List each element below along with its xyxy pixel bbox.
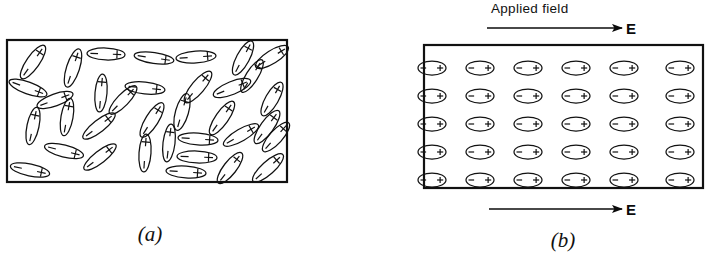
- dipole: [514, 61, 542, 75]
- panel-a-caption: (a): [100, 222, 200, 247]
- dipole: [666, 89, 694, 103]
- panel-b-caption: (b): [513, 228, 613, 253]
- dipole: [562, 145, 590, 159]
- dipole: [610, 117, 638, 131]
- dipole: [666, 145, 694, 159]
- dipole: [466, 61, 494, 75]
- dipole: [666, 61, 694, 75]
- dipole: [610, 173, 638, 187]
- dipole: [610, 89, 638, 103]
- dipole: [562, 61, 590, 75]
- dipole: [514, 117, 542, 131]
- dipole: [514, 145, 542, 159]
- dipole: [418, 117, 446, 131]
- dipole: [514, 173, 542, 187]
- applied-field-label: Applied field: [491, 1, 568, 16]
- dipole: [562, 173, 590, 187]
- dipole: [466, 89, 494, 103]
- dipole: [418, 173, 446, 187]
- dipole: [610, 145, 638, 159]
- dipole: [466, 117, 494, 131]
- dipole: [666, 117, 694, 131]
- dipole: [418, 89, 446, 103]
- dipole: [466, 145, 494, 159]
- field-symbol-bottom: E: [626, 201, 636, 218]
- dipole: [666, 173, 694, 187]
- dipole: [514, 89, 542, 103]
- dipole: [562, 117, 590, 131]
- dipole: [562, 89, 590, 103]
- aligned-dipole-group: [418, 61, 694, 187]
- figure-dielectric-polarization: Applied field E E (a) (b): [0, 0, 706, 262]
- dipole: [418, 61, 446, 75]
- field-symbol-top: E: [626, 20, 636, 37]
- dipole: [610, 61, 638, 75]
- dipole: [418, 145, 446, 159]
- dipole: [466, 173, 494, 187]
